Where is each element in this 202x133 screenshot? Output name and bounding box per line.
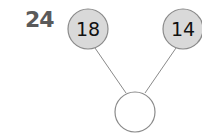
whole-circle[interactable] (115, 92, 155, 132)
part-right-value: 14 (171, 18, 195, 40)
connector-left (95, 48, 126, 93)
connector-right (145, 48, 176, 93)
part-circle-left: 18 (68, 9, 108, 49)
number-bond-diagram: 18 14 (0, 0, 202, 133)
part-circle-right: 14 (163, 9, 202, 49)
part-left-value: 18 (76, 18, 100, 40)
